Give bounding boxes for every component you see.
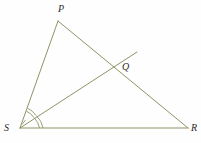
segment-SP — [20, 21, 58, 128]
vertex-label-Q: Q — [122, 62, 129, 72]
geometry-canvas — [0, 0, 201, 143]
segment-PR — [58, 21, 188, 128]
geometry-figure: P Q R S — [0, 0, 201, 143]
vertex-label-S: S — [4, 123, 9, 133]
vertex-label-R: R — [191, 123, 197, 133]
vertex-label-P: P — [58, 4, 64, 14]
angle-arc-QSR-1 — [34, 118, 40, 128]
